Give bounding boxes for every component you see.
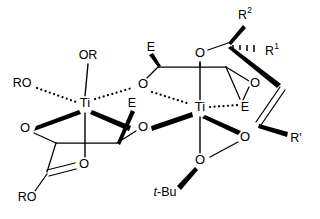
structure-canvas: Ti Ti OR RO O O RO E O O E O O E O O t-B…: [0, 0, 320, 219]
group-label-tert-butyl: t-Bu: [154, 185, 177, 199]
tert-butyl-suffix: -Bu: [157, 185, 177, 199]
group-label-r1: R1: [265, 41, 279, 58]
group-label-tartrate-ester-right: E: [241, 100, 249, 114]
bond-ester-carbon-to-alkoxy-oxygen: [35, 174, 47, 191]
group-label-alkoxide-left: RO: [13, 76, 32, 90]
bond-bridge-oxygen-lower-to-ti-right-wedge: [151, 112, 193, 131]
atom-label-oxygen-peroxide-outer: O: [195, 152, 205, 167]
atom-label-oxygen-peroxide-inner: O: [240, 129, 250, 144]
group-label-tartrate-ester-left: E: [128, 96, 136, 110]
atom-label-oxygen-ester-carbonyl: O: [79, 156, 89, 171]
bond-bridge-oxygen-upper-to-carbon: [147, 67, 158, 78]
atom-label-ti-right: Ti: [195, 99, 205, 114]
r1-base: R: [265, 44, 274, 58]
bond-bridge-oxygen-upper-to-ti-right: [152, 92, 190, 104]
chemical-structure-figure: Ti Ti OR RO O O RO E O O E O O E O O t-B…: [0, 0, 320, 219]
atom-label-oxygen-allylic: O: [195, 45, 205, 60]
bond-ester-carbonyl-double-a: [47, 163, 75, 170]
group-label-ester-alkoxy: RO: [18, 190, 37, 204]
bond-ti-left-to-chelate-oxygen-wedge: [34, 110, 81, 131]
bond-epoxide-oxygen-to-e-carbon: [243, 87, 249, 100]
atom-label-oxygen-left-chelate: O: [20, 120, 30, 135]
bond-peroxide-o-o: [210, 142, 238, 157]
bond-carbinol-to-r2-wedge: [228, 25, 246, 45]
bond-chelate-oxygen-to-alpha-carbon: [34, 133, 56, 143]
bond-upper-carbon-to-ester-wedge: [149, 53, 161, 67]
group-label-r2: R2: [238, 5, 252, 22]
bond-ti-left-to-bridge-oxygen-upper: [95, 88, 132, 99]
group-label-alkoxide-top: OR: [79, 48, 98, 62]
atom-label-oxygen-bridge-upper: O: [138, 76, 148, 91]
group-label-rprime: R': [290, 131, 301, 145]
bond-alkoxide-left-to-ti-left: [37, 88, 76, 102]
bond-ti-right-to-peroxide-inner-oxygen-wedge: [202, 115, 241, 135]
atom-label-oxygen-epoxide-right: O: [250, 75, 260, 90]
bond-olefin-double-a: [256, 87, 280, 122]
atom-label-oxygen-bridge-lower: O: [138, 119, 148, 134]
group-label-tartrate-ester-upper: E: [147, 40, 155, 54]
bond-ti-left-to-alkoxide-top: [85, 64, 88, 96]
atom-label-ti-left: Ti: [80, 95, 90, 110]
bond-ti-right-to-epoxide-oxygen: [210, 105, 239, 107]
r1-superscript: 1: [274, 41, 279, 51]
bond-beta-carbon-to-ester-group-wedge: [117, 110, 135, 145]
bond-allylic-oxygen-to-carbinol-carbon: [208, 43, 228, 50]
bond-ester-carbonyl-double-b: [49, 169, 76, 176]
bond-vinyl-carbon-to-rprime-wedge: [258, 124, 288, 137]
bond-peroxide-outer-oxygen-to-tert-butyl-wedge: [177, 167, 198, 190]
bond-olefin-double-b: [261, 90, 285, 125]
r2-base: R: [238, 8, 247, 22]
r2-superscript: 2: [247, 5, 252, 15]
